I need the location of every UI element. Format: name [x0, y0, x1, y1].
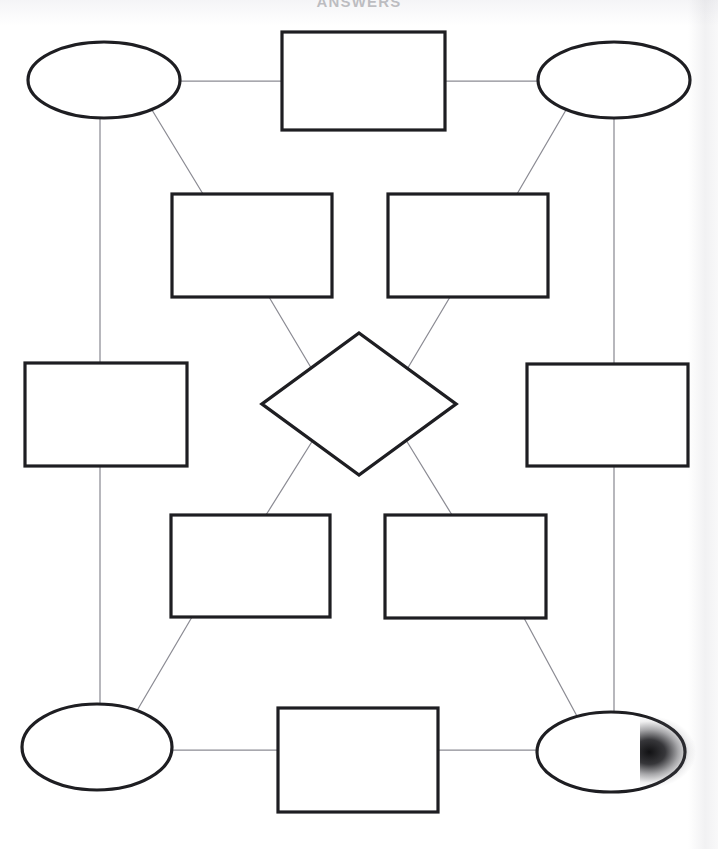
node-top-center-rectangle[interactable]: [282, 32, 445, 130]
connector-lower-left-rectangle-to-bottom-left-ellipse: [135, 617, 192, 714]
middle-left-rectangle-shape[interactable]: [25, 363, 187, 466]
node-top-right-ellipse[interactable]: [538, 42, 690, 118]
top-center-rectangle-shape[interactable]: [282, 32, 445, 130]
diagram-page: ANSWERS: [0, 0, 718, 849]
bottom-center-rectangle-shape[interactable]: [278, 708, 438, 812]
bottom-right-ellipse-shape[interactable]: [537, 712, 685, 792]
connector-center-diamond-to-lower-left-rectangle: [266, 440, 313, 515]
middle-right-rectangle-shape[interactable]: [527, 364, 688, 466]
connector-top-right-ellipse-to-upper-right-rectangle: [517, 110, 566, 194]
node-middle-right-rectangle[interactable]: [527, 364, 688, 466]
node-upper-right-rectangle[interactable]: [388, 194, 548, 297]
lower-right-rectangle-shape[interactable]: [385, 515, 546, 618]
bottom-left-ellipse-shape[interactable]: [22, 704, 172, 790]
lower-left-rectangle-shape[interactable]: [171, 515, 330, 617]
top-right-ellipse-shape[interactable]: [538, 42, 690, 118]
node-bottom-center-rectangle[interactable]: [278, 708, 438, 812]
connector-center-diamond-to-lower-right-rectangle: [406, 440, 452, 515]
node-bottom-right-ellipse[interactable]: [537, 712, 685, 792]
upper-right-rectangle-shape[interactable]: [388, 194, 548, 297]
connector-upper-right-rectangle-to-center-diamond: [406, 297, 450, 371]
node-upper-left-rectangle[interactable]: [172, 194, 332, 297]
node-center-diamond[interactable]: [262, 333, 456, 475]
diagram-canvas: [0, 0, 718, 849]
node-middle-left-rectangle[interactable]: [25, 363, 187, 466]
connector-top-left-ellipse-to-upper-left-rectangle: [152, 110, 203, 194]
node-bottom-left-ellipse[interactable]: [22, 704, 172, 790]
node-lower-right-rectangle[interactable]: [385, 515, 546, 618]
node-top-left-ellipse[interactable]: [28, 42, 180, 118]
shape-layer: [22, 32, 690, 812]
center-diamond-shape[interactable]: [262, 333, 456, 475]
top-left-ellipse-shape[interactable]: [28, 42, 180, 118]
node-lower-left-rectangle[interactable]: [171, 515, 330, 617]
connector-upper-left-rectangle-to-center-diamond: [269, 297, 313, 371]
upper-left-rectangle-shape[interactable]: [172, 194, 332, 297]
connector-lower-right-rectangle-to-bottom-right-ellipse: [524, 618, 578, 718]
